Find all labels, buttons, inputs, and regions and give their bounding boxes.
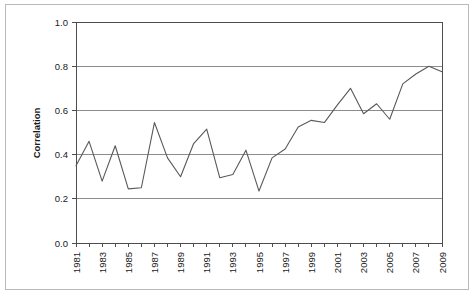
y-tick-label: 0.6 bbox=[55, 105, 68, 116]
y-tick-label: 0.8 bbox=[55, 61, 68, 72]
x-tick-label: 1999 bbox=[306, 252, 317, 273]
x-tick-label: 1989 bbox=[175, 252, 186, 273]
data-series-layer bbox=[76, 66, 442, 191]
x-tick-label: 1987 bbox=[149, 252, 160, 273]
chart-figure: 0.00.20.40.60.81.0 198119831985198719891… bbox=[0, 0, 476, 298]
x-tick-label: 1983 bbox=[97, 252, 108, 273]
y-tick-label: 1.0 bbox=[55, 17, 68, 28]
y-axis-ticks bbox=[72, 22, 76, 243]
y-tick-label: 0.2 bbox=[55, 193, 68, 204]
x-tick-label: 2005 bbox=[384, 252, 395, 273]
y-tick-label: 0.0 bbox=[55, 238, 68, 249]
x-tick-label: 1995 bbox=[254, 252, 265, 273]
correlation-line-chart: 0.00.20.40.60.81.0 198119831985198719891… bbox=[0, 0, 476, 298]
x-tick-label: 2001 bbox=[332, 252, 343, 273]
y-tick-label: 0.4 bbox=[55, 149, 68, 160]
y-axis-tick-labels: 0.00.20.40.60.81.0 bbox=[55, 17, 68, 249]
x-tick-label: 1993 bbox=[227, 252, 238, 273]
x-tick-label: 2009 bbox=[437, 252, 448, 273]
x-axis-tick-labels: 1981198319851987198919911993199519971999… bbox=[71, 252, 448, 273]
x-axis-ticks bbox=[76, 243, 442, 247]
x-tick-label: 1985 bbox=[123, 252, 134, 273]
x-tick-label: 1997 bbox=[280, 252, 291, 273]
plot-area-frame bbox=[76, 22, 442, 243]
grid-lines bbox=[76, 22, 442, 243]
y-axis-title: Correlation bbox=[31, 107, 42, 158]
x-tick-label: 1981 bbox=[71, 252, 82, 273]
x-tick-label: 2007 bbox=[410, 252, 421, 273]
x-tick-label: 1991 bbox=[201, 252, 212, 273]
x-tick-label: 2003 bbox=[358, 252, 369, 273]
data-series-line bbox=[76, 66, 442, 191]
